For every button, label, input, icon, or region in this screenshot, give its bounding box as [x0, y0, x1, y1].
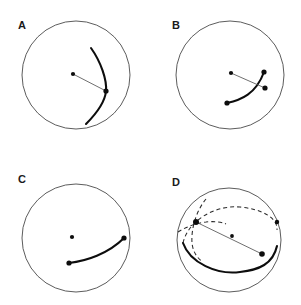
panel-b-vertex-node: [262, 85, 267, 90]
panel-a-vertex-node: [103, 88, 108, 93]
panel-a-center-node: [71, 72, 75, 76]
panel-b-center-node: [229, 71, 233, 75]
panel-a-label: A: [18, 19, 26, 31]
panel-d-junction-node: [193, 219, 199, 225]
panel-b: B: [172, 19, 284, 129]
panel-c-endpoint-node-1: [66, 260, 71, 265]
panel-d-endpoint-node-2: [275, 220, 279, 224]
panel-b-boundary-circle: [176, 21, 284, 129]
panel-d-equator-hidden-arc: [183, 207, 277, 243]
panel-b-endpoint-node-2: [261, 69, 266, 74]
panel-d-meridian-hidden-arc: [192, 199, 206, 262]
panel-c: C: [18, 173, 130, 292]
panel-d-center-node: [230, 234, 234, 238]
panel-d-meridian-hidden-arc-2: [178, 222, 226, 232]
panel-b-geodesic-arc: [227, 72, 264, 103]
panel-a: A: [18, 19, 130, 129]
panel-d: D: [172, 176, 281, 292]
panel-a-radial-line: [73, 74, 106, 91]
panel-d-label: D: [172, 176, 180, 188]
panel-b-label: B: [172, 19, 180, 31]
geometric-figure: A B C: [0, 0, 301, 305]
panel-d-equator-visible-arc: [183, 243, 277, 272]
panel-c-boundary-circle: [22, 184, 130, 292]
panel-c-label: C: [18, 173, 26, 185]
panel-d-sphere-outline: [177, 188, 281, 292]
panel-b-endpoint-node-1: [224, 100, 229, 105]
panel-a-boundary-circle: [22, 21, 130, 129]
figure-container: A B C: [0, 0, 301, 305]
panel-d-chord-line: [196, 222, 262, 254]
panel-c-endpoint-node-2: [121, 235, 126, 240]
panel-c-geodesic-arc: [69, 238, 124, 263]
panel-d-endpoint-node-1: [259, 251, 265, 257]
panel-c-center-node: [70, 235, 74, 239]
